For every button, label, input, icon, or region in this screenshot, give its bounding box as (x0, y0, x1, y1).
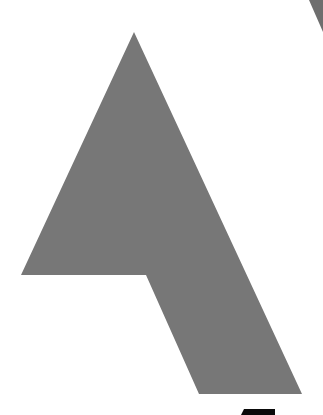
bottom-black-block-shape (241, 409, 275, 415)
artwork-canvas (0, 0, 323, 415)
